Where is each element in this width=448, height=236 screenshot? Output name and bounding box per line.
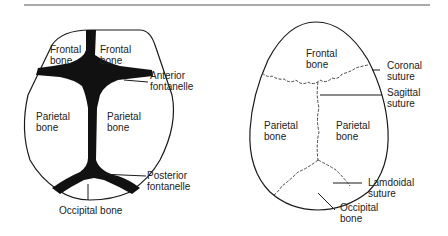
anterior-leader <box>124 80 148 82</box>
label-occipital-bone-adult: Occipital bone <box>340 202 378 224</box>
label-sagittal-suture: Sagittal suture <box>387 87 420 109</box>
label-parietal-bone-left: Parietal bone <box>36 111 70 133</box>
label-lamdoidal-suture: Lamdoidal suture <box>368 177 414 199</box>
sagittal-suture-line <box>317 82 319 160</box>
lamdoidal-suture-line <box>274 160 318 195</box>
label-frontal-bone: Frontal bone <box>306 48 337 70</box>
label-posterior-fontanelle: Posterior fontanelle <box>147 170 190 192</box>
occipital-leader-right <box>318 193 335 210</box>
label-coronal-suture: Coronal suture <box>387 60 422 82</box>
label-anterior-fontanelle: Anterior fontanelle <box>150 70 193 92</box>
label-frontal-bone-left: Frontal bone <box>50 44 81 66</box>
label-parietal-bone-right-adult: Parietal bone <box>336 120 370 142</box>
lamdoidal-suture-line-right <box>318 160 350 186</box>
label-parietal-bone-right: Parietal bone <box>107 111 141 133</box>
label-parietal-bone-left-adult: Parietal bone <box>264 120 298 142</box>
skull-diagram-figure: Frontal bone Frontal bone Anterior fonta… <box>0 0 448 236</box>
label-frontal-bone-right: Frontal bone <box>100 44 131 66</box>
label-occipital-bone-left: Occipital bone <box>59 205 122 216</box>
